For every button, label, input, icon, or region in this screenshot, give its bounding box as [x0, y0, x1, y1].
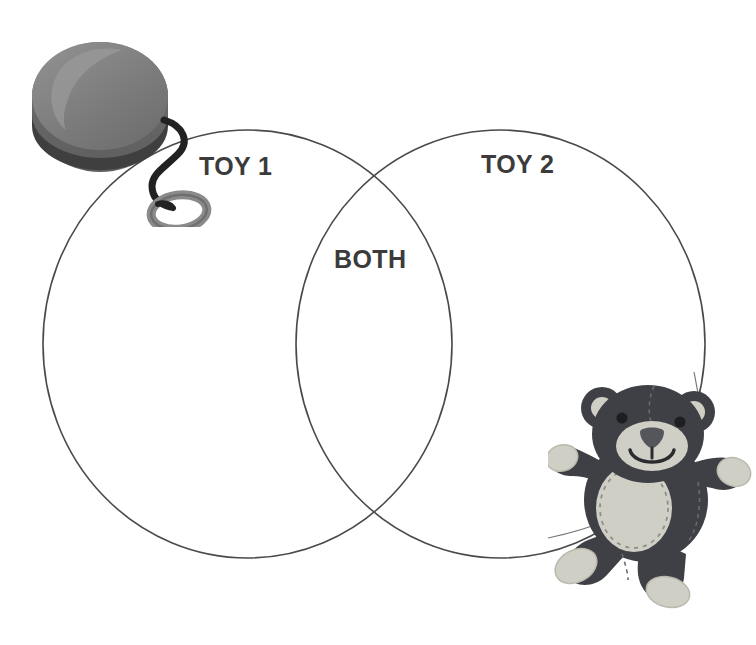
yoyo-icon — [18, 22, 228, 227]
teddy-eye-right — [674, 416, 685, 427]
diagram-canvas: TOY 1 TOY 2 BOTH — [0, 0, 756, 645]
teddy-eye-left — [616, 412, 627, 423]
venn-label-overlap: BOTH — [334, 245, 406, 274]
venn-label-right: TOY 2 — [481, 150, 554, 179]
teddy-bear-icon — [548, 370, 756, 628]
